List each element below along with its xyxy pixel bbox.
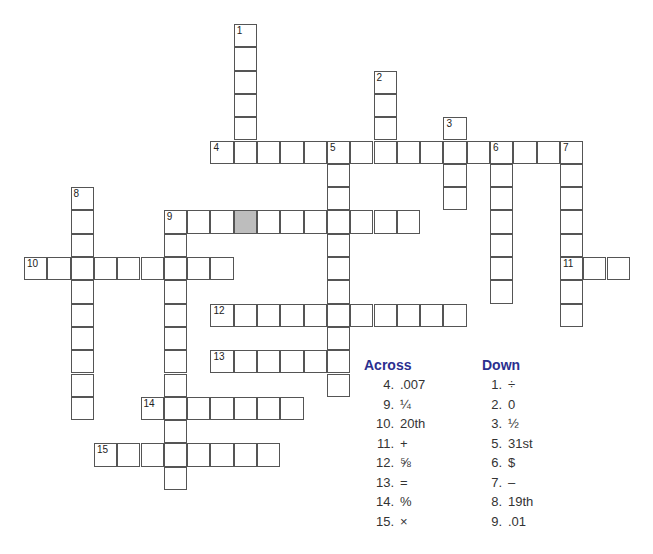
grid-cell[interactable]: 13	[210, 350, 233, 373]
grid-cell[interactable]	[490, 210, 513, 233]
grid-cell[interactable]	[71, 210, 94, 233]
grid-cell[interactable]	[71, 304, 94, 327]
grid-cell[interactable]	[327, 374, 350, 397]
grid-cell[interactable]	[490, 280, 513, 303]
grid-cell[interactable]	[71, 397, 94, 420]
grid-cell[interactable]	[304, 350, 327, 373]
grid-cell[interactable]	[234, 94, 257, 117]
grid-cell[interactable]	[490, 234, 513, 257]
grid-cell[interactable]	[234, 350, 257, 373]
grid-cell[interactable]	[210, 210, 233, 233]
grid-cell[interactable]	[560, 280, 583, 303]
grid-cell[interactable]: 12	[210, 304, 233, 327]
grid-cell[interactable]	[71, 234, 94, 257]
grid-cell[interactable]	[141, 257, 164, 280]
grid-cell[interactable]	[257, 443, 280, 466]
grid-cell[interactable]: 2	[374, 71, 397, 94]
grid-cell[interactable]	[210, 443, 233, 466]
grid-cell[interactable]	[164, 234, 187, 257]
grid-cell[interactable]	[164, 374, 187, 397]
grid-cell[interactable]: 1	[234, 24, 257, 47]
grid-cell[interactable]	[583, 257, 606, 280]
grid-cell[interactable]	[71, 374, 94, 397]
grid-cell[interactable]	[210, 257, 233, 280]
grid-cell[interactable]	[374, 117, 397, 140]
grid-cell[interactable]: 3	[443, 117, 466, 140]
grid-cell[interactable]	[117, 443, 140, 466]
grid-cell[interactable]	[257, 304, 280, 327]
grid-cell[interactable]	[607, 257, 630, 280]
grid-cell[interactable]	[490, 257, 513, 280]
grid-cell[interactable]	[280, 141, 303, 164]
grid-cell[interactable]	[47, 257, 70, 280]
grid-cell[interactable]	[257, 397, 280, 420]
grid-cell[interactable]	[234, 141, 257, 164]
grid-cell[interactable]	[327, 304, 350, 327]
grid-cell[interactable]	[280, 397, 303, 420]
grid-cell[interactable]: 10	[24, 257, 47, 280]
grid-cell[interactable]	[327, 210, 350, 233]
grid-cell[interactable]	[141, 443, 164, 466]
grid-cell[interactable]	[164, 327, 187, 350]
grid-cell[interactable]	[164, 420, 187, 443]
grid-cell[interactable]: 9	[164, 210, 187, 233]
grid-cell[interactable]	[374, 94, 397, 117]
grid-cell[interactable]	[164, 350, 187, 373]
grid-cell[interactable]	[397, 210, 420, 233]
grid-cell[interactable]	[420, 141, 443, 164]
grid-cell[interactable]	[280, 350, 303, 373]
grid-cell[interactable]	[327, 280, 350, 303]
grid-cell[interactable]	[327, 257, 350, 280]
grid-cell[interactable]	[327, 327, 350, 350]
grid-cell[interactable]	[257, 210, 280, 233]
grid-cell[interactable]	[234, 304, 257, 327]
grid-cell[interactable]: 7	[560, 141, 583, 164]
grid-cell[interactable]	[374, 304, 397, 327]
grid-cell[interactable]	[327, 187, 350, 210]
grid-cell[interactable]	[210, 397, 233, 420]
grid-cell[interactable]	[164, 257, 187, 280]
grid-cell[interactable]	[327, 234, 350, 257]
grid-cell[interactable]	[164, 397, 187, 420]
grid-cell[interactable]	[71, 280, 94, 303]
grid-cell[interactable]	[467, 141, 490, 164]
grid-cell[interactable]: 5	[327, 141, 350, 164]
grid-cell[interactable]	[234, 210, 257, 233]
grid-cell[interactable]	[234, 443, 257, 466]
grid-cell[interactable]	[327, 164, 350, 187]
grid-cell[interactable]	[443, 164, 466, 187]
grid-cell[interactable]	[443, 187, 466, 210]
grid-cell[interactable]	[164, 304, 187, 327]
grid-cell[interactable]	[117, 257, 140, 280]
grid-cell[interactable]	[187, 443, 210, 466]
grid-cell[interactable]	[234, 397, 257, 420]
grid-cell[interactable]	[234, 71, 257, 94]
grid-cell[interactable]	[443, 141, 466, 164]
grid-cell[interactable]	[327, 350, 350, 373]
grid-cell[interactable]: 6	[490, 141, 513, 164]
grid-cell[interactable]	[513, 141, 536, 164]
grid-cell[interactable]	[374, 210, 397, 233]
grid-cell[interactable]: 8	[71, 187, 94, 210]
grid-cell[interactable]	[350, 141, 373, 164]
grid-cell[interactable]	[164, 280, 187, 303]
grid-cell[interactable]	[164, 443, 187, 466]
grid-cell[interactable]	[71, 327, 94, 350]
grid-cell[interactable]	[420, 304, 443, 327]
grid-cell[interactable]	[280, 304, 303, 327]
grid-cell[interactable]	[443, 304, 466, 327]
grid-cell[interactable]	[374, 141, 397, 164]
grid-cell[interactable]	[397, 304, 420, 327]
grid-cell[interactable]	[280, 210, 303, 233]
grid-cell[interactable]	[560, 210, 583, 233]
grid-cell[interactable]	[560, 187, 583, 210]
grid-cell[interactable]: 4	[210, 141, 233, 164]
grid-cell[interactable]	[490, 187, 513, 210]
grid-cell[interactable]	[187, 210, 210, 233]
grid-cell[interactable]	[537, 141, 560, 164]
grid-cell[interactable]	[350, 210, 373, 233]
grid-cell[interactable]	[71, 257, 94, 280]
grid-cell[interactable]	[397, 141, 420, 164]
grid-cell[interactable]	[304, 141, 327, 164]
grid-cell[interactable]: 11	[560, 257, 583, 280]
